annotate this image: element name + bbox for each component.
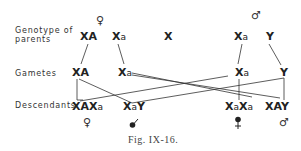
normal-male-symbol-icon: ♂ [279,117,289,128]
female-symbol-icon: ♀ [96,15,104,26]
descendant-XaY: XaY [123,101,145,113]
row-label-gametes: Gametes [15,69,57,78]
cross-symbol: X [164,31,172,43]
parent-male-Xa: Xa [234,31,248,43]
gamete-Xa-female: Xa [118,67,132,79]
row-label-descendants: Descendants [15,101,76,110]
gamete-Y: Y [280,67,288,79]
female-carrier-symbol-icon: ♀ [83,117,91,128]
row-label-parents: Genotype of parents [15,26,73,44]
parent-female-XA: XA [80,31,97,43]
parent-female-Xa: Xa [112,31,126,43]
male-symbol-icon: ♂ [251,10,261,21]
parent-male-Y: Y [266,31,274,43]
figure-caption: Fig. IX-16. [128,134,178,145]
descendant-XAXa: XAXa [72,101,103,113]
gamete-XA: XA [72,67,89,79]
affected-male-symbol-icon [129,117,139,129]
row-label-parents-line1: Genotype of [15,26,73,35]
affected-female-symbol-icon [233,116,243,130]
gamete-Xa-male: Xa [235,67,249,79]
row-label-parents-line2: parents [15,35,73,44]
descendant-XAY: XAY [265,101,289,113]
descendant-XaXa: XaXa [225,101,253,113]
